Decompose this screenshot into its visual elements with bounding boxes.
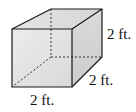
width-label: 2 ft.	[30, 93, 54, 108]
height-label: 2 ft.	[107, 27, 131, 42]
cube-diagram: 2 ft. 2 ft. 2 ft.	[0, 0, 136, 112]
cube-drawing	[0, 0, 136, 112]
depth-label: 2 ft.	[89, 73, 113, 88]
front-face	[12, 29, 72, 87]
